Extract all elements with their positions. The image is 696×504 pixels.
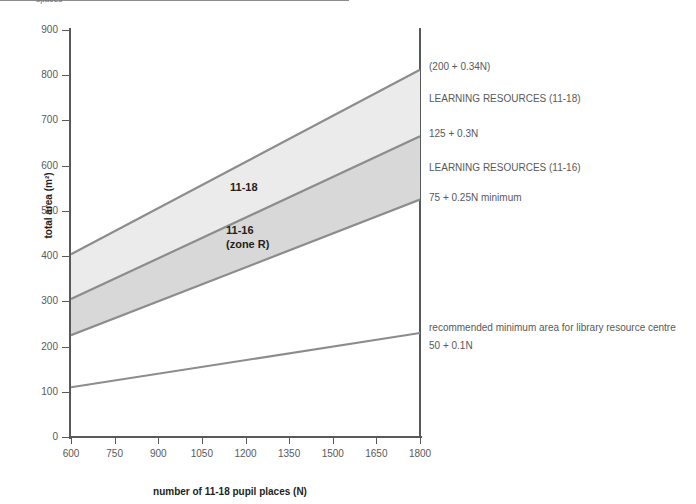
y-tick-label: 700 — [14, 114, 58, 125]
x-tick-mark — [333, 437, 334, 444]
y-axis-title: total area (m²) — [43, 126, 54, 286]
band-label-11-16-zone-r: 11-16 (zone R) — [226, 224, 269, 252]
x-tick-mark — [71, 437, 72, 444]
x-tick-mark — [246, 437, 247, 444]
annotation-mid-formula: 125 + 0.3N — [429, 127, 478, 141]
band-fills — [71, 70, 420, 335]
y-tick-mark — [62, 392, 69, 393]
x-tick-mark — [158, 437, 159, 444]
annotation-minimum-formula: 75 + 0.25N minimum — [429, 191, 522, 205]
band-label-11-18: 11-18 — [230, 181, 258, 195]
y-tick-mark — [62, 256, 69, 257]
annotation-learning-resources-11-16: LEARNING RESOURCES (11-16) — [429, 161, 581, 175]
annotation-learning-resources-11-18: LEARNING RESOURCES (11-18) — [429, 92, 581, 106]
chart-page: spaces 0100200300400500600700800900 6007… — [0, 0, 696, 504]
y-tick-label: 800 — [14, 69, 58, 80]
y-tick-mark — [62, 211, 69, 212]
x-tick-mark — [420, 437, 421, 444]
x-axis-title: number of 11-18 pupil places (N) — [0, 486, 460, 497]
annotation-upper-formula: (200 + 0.34N) — [429, 60, 490, 74]
x-tick-mark — [202, 437, 203, 444]
y-tick-label: 300 — [14, 295, 58, 306]
y-tick-mark — [62, 437, 69, 438]
y-tick-mark — [62, 30, 69, 31]
y-tick-label: 100 — [14, 386, 58, 397]
annotation-library-resource-centre: recommended minimum area for library res… — [429, 321, 676, 335]
y-tick-label: 900 — [14, 24, 58, 35]
series-line-3 — [71, 333, 420, 387]
annotation-library-formula: 50 + 0.1N — [429, 339, 473, 353]
y-tick-mark — [62, 166, 69, 167]
y-tick-mark — [62, 120, 69, 121]
y-tick-mark — [62, 347, 69, 348]
x-tick-label: 1800 — [390, 448, 450, 459]
x-tick-mark — [115, 437, 116, 444]
y-tick-mark — [62, 301, 69, 302]
x-tick-mark — [289, 437, 290, 444]
y-tick-label: 0 — [14, 431, 58, 442]
y-tick-mark — [62, 75, 69, 76]
x-tick-mark — [376, 437, 377, 444]
y-tick-label: 200 — [14, 341, 58, 352]
